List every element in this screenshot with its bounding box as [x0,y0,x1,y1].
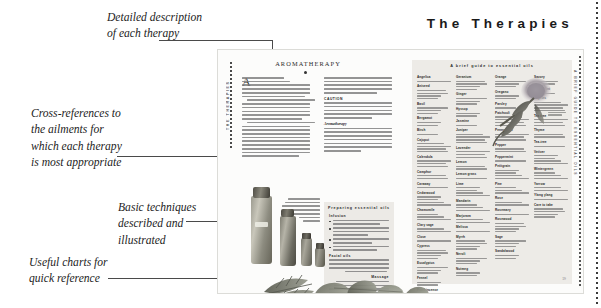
callout-line: is most appropriate [31,155,122,171]
oil-entry: Yarrow [534,183,568,192]
oil-entry-description [456,134,490,143]
right-page: A BRIEF GUIDE TO ESSENTIAL OILS A brief … [406,50,583,293]
oil-entry-description [495,240,529,247]
oil-entry-name: Thyme [534,129,568,133]
subhead-aromatherapy: Aromatherapy [324,122,392,126]
page-edge-dotted-rule [596,2,598,306]
oil-entry-name: Angelica [417,76,451,80]
oil-entry-description [495,107,529,108]
oil-entry: Frankincense [417,289,451,293]
oil-entry: Spearmint [534,88,568,94]
drop-cap: A [242,77,251,89]
oil-entry: Eucalyptus [417,262,451,273]
subhead-caution: CAUTION [324,97,392,101]
oil-column: OrangeOreganoParsleyPatchouliPennyroyalP… [495,76,529,278]
callout-line: quick reference [29,271,108,287]
prep-subhead-infusion: Infusion [329,214,389,218]
oil-entry: Care to take [534,204,568,218]
oil-entry: Wintergreen [534,168,568,179]
screenshot-canvas: The Therapies Detailed description of ea… [0,0,601,308]
oil-entry-name: Pepper [495,144,529,148]
oil-entry: Caraway [417,183,451,189]
oil-entry: Sandalwood [495,250,529,259]
oil-entry-name: Mandarin [456,200,490,204]
oil-entry-description [456,240,490,249]
oil-entry-name: Hyssop [456,108,490,112]
oil-entry: Rosewood [495,218,529,232]
oil-entry-name: Cajuput [417,139,451,143]
oil-entry-description [495,255,529,259]
oil-entry-description [417,90,451,99]
oil-entry-name: Myrrh [456,236,490,240]
oil-entry-description [534,102,568,111]
oil-entry: Lemon [456,161,490,170]
oil-entry-name: Sandalwood [495,250,529,254]
oil-column: SavorySpearmintTagetesTea treeThymeTea-t… [534,76,568,278]
oil-entry: Jasmine [456,120,490,126]
oil-entry-description [417,175,451,179]
oil-entry-description [534,134,568,138]
oil-entry: Tea-tree [534,141,568,147]
oil-entry: Lavender [456,147,490,158]
oil-entry: Nutmeg [456,268,490,277]
oil-entry-name: Birch [417,129,451,133]
oil-entry: Myrrh [456,236,490,250]
oil-entry-name: Sage [495,236,529,240]
running-head: The Therapies [427,16,573,31]
oil-entry: Peppermint [495,156,529,162]
ornament-dot-icon [304,71,307,74]
prep-subhead-facial-oils: Facial oils [329,254,389,258]
oil-entry-description [417,214,451,221]
photo-caption-label [548,112,566,117]
oil-entry: Orange [495,76,529,87]
oil-entry: Basil [417,103,451,114]
oil-entry: Juniper [456,129,490,143]
oil-entry-description [495,170,529,179]
oil-entry-name: Frankincense [417,289,451,293]
prep-bullet [329,246,389,251]
oil-entry: Ginger [456,93,490,104]
callout-basic-techniques: Basic techniques described and illustrat… [118,200,196,249]
oil-entry-description [495,160,529,161]
oil-entry-name: Pine [495,183,529,187]
oil-entry-description [456,166,490,170]
oil-entry-description [456,81,490,90]
oil-entry-description [417,81,451,82]
oil-entry-name: Neroli [456,253,490,257]
oil-entry-name: Geranium [456,76,490,80]
oil-entry-name: Aniseed [417,85,451,89]
oil-entry-description [417,134,451,135]
oil-entry: Angelica [417,76,451,82]
oil-entry-description [534,187,568,191]
oil-entry-description [417,187,451,188]
oil-entry-description [495,95,529,99]
oil-entry: Thyme [534,129,568,138]
oil-entry-name: Savory [534,76,568,80]
oil-entry-description [456,151,490,158]
oil-entry-name: Pennyroyal [495,129,529,133]
oil-entry-name: Clove [417,236,451,240]
oil-entry-description [456,231,490,232]
oil-entry: Hyssop [456,108,490,117]
oil-entry-name: Petitgrain [495,165,529,169]
oil-entry-name: Patchouli [495,112,529,116]
oil-entry-name: Calendula [417,156,451,160]
article-column-left: A [242,77,310,159]
oil-entry: Savory [534,76,568,85]
oil-entry-description [417,240,451,241]
oil-entry: Rosemary [495,209,529,215]
oil-entry-name: Basil [417,103,451,107]
oil-entry-name: Tagetes [534,97,568,101]
oil-entry-description [495,116,529,125]
essential-oils-chart-panel: A brief guide to essential oils Angelica… [412,60,572,284]
article-title: AROMATHERAPY [254,60,362,67]
oil-entry-description [456,98,490,105]
callout-line: Basic techniques [118,200,196,216]
oil-entry: Parsley [495,103,529,109]
oil-reference-columns: AngelicaAniseedBasilBergamotBirchCajuput… [417,76,568,278]
page-number: 19 [562,277,566,281]
oil-entry-description [456,187,490,196]
oil-entry-name: Eucalyptus [417,262,451,266]
oil-entry-name: Lemon [456,161,490,165]
prep-bullet [329,238,389,243]
